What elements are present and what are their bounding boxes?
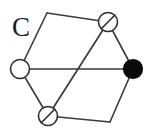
figure-label: C <box>12 12 30 42</box>
hexagon-graph-diagram: C <box>0 0 152 136</box>
hexagon-outline-group <box>20 13 133 122</box>
top-right-vertex-slashed-circle-icon <box>99 13 118 32</box>
right-vertex-filled-circle-icon <box>124 60 143 79</box>
left-vertex-open-circle-icon <box>11 60 30 79</box>
figure-container: C <box>0 0 152 136</box>
bottom-left-vertex-slashed-circle-icon <box>39 107 58 126</box>
